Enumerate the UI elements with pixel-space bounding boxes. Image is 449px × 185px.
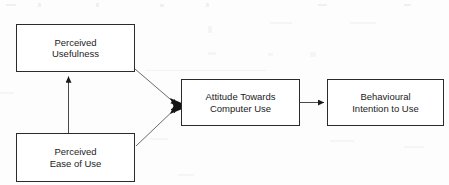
node-attitude-towards-computer-use[interactable]: Attitude Towards Computer Use — [181, 79, 300, 126]
node-label-line2: Usefulness — [49, 48, 102, 60]
node-behavioural-intention-to-use[interactable]: Behavioural Intention to Use — [327, 79, 444, 126]
node-label-line2: Ease of Use — [47, 158, 105, 170]
node-label-line1: Perceived — [49, 37, 102, 49]
node-label-line1: Perceived — [47, 146, 105, 158]
diagram-canvas: Perceived Usefulness Perceived Ease of U… — [0, 0, 449, 185]
node-label-line2: Intention to Use — [349, 103, 422, 115]
node-perceived-ease-of-use[interactable]: Perceived Ease of Use — [16, 133, 135, 182]
node-label-line1: Behavioural — [349, 91, 422, 103]
junction-arrowhead-icon — [170, 98, 181, 114]
node-label-line2: Computer Use — [202, 103, 278, 115]
node-label-line1: Attitude Towards — [202, 91, 278, 103]
node-perceived-usefulness[interactable]: Perceived Usefulness — [16, 24, 135, 72]
edge-usefulness-to-attitude — [135, 69, 177, 105]
